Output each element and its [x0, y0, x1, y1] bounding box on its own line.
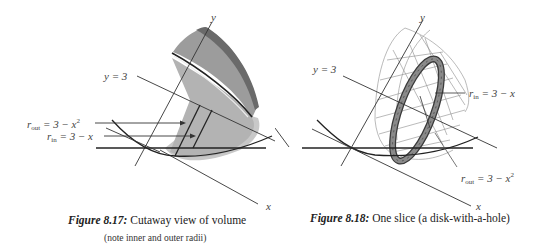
figure-8-18: y y = 3 rin = 3 − x rout = 3 − x2 x Figu…	[275, 0, 549, 250]
x-axis-label: x	[476, 201, 481, 212]
figure-caption-note: (note inner and outer radii)	[104, 233, 206, 243]
line-label: y = 3	[313, 64, 336, 75]
figure-caption: Figure 8.18: One slice (a disk-with-a-ho…	[310, 212, 510, 224]
y-axis-label: y	[211, 12, 216, 23]
figure-caption: Figure 8.17: Cutaway view of volume	[68, 214, 246, 226]
r-in-label: rin = 3 − x	[469, 88, 515, 101]
figure-8-17: y y = 3 rout = 3 − x2 rin = 3 − x x Figu…	[0, 0, 275, 250]
r-in-label: rin = 3 − x	[47, 131, 93, 144]
line-label: y = 3	[104, 71, 127, 82]
r-out-label: rout = 3 − x2	[461, 172, 514, 186]
y-axis-label: y	[420, 12, 425, 23]
y-axis-line	[341, 20, 423, 166]
x-axis-label: x	[266, 201, 271, 212]
